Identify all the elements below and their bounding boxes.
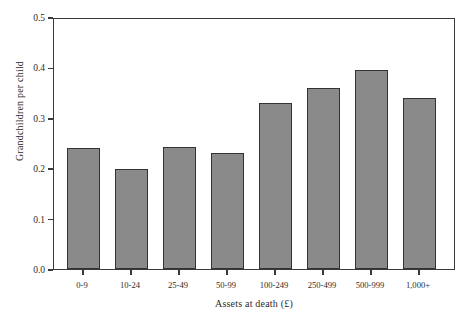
x-tick-mark-2: [178, 270, 180, 275]
bar-7: [403, 98, 436, 269]
bar-3: [211, 153, 244, 269]
bar-5: [307, 88, 340, 269]
bar-0: [67, 148, 100, 269]
x-axis-title: Assets at death (£): [53, 299, 455, 309]
x-tick-mark-4: [274, 270, 276, 275]
y-axis-title: Grandchildren per child: [15, 31, 25, 191]
x-tick-mark-1: [130, 270, 132, 275]
x-tick-mark-7: [418, 270, 420, 275]
y-tick-label-1: 0.1: [14, 216, 45, 226]
x-tick-mark-5: [322, 270, 324, 275]
bar-2: [163, 147, 196, 269]
x-tick-mark-3: [226, 270, 228, 275]
y-tick-label-5: 0.5: [14, 14, 45, 24]
bar-4: [259, 103, 292, 269]
plot-frame: [53, 18, 455, 270]
plot-area: [54, 19, 454, 269]
x-tick-mark-6: [370, 270, 372, 275]
bar-6: [355, 70, 388, 269]
x-tick-mark-0: [82, 270, 84, 275]
x-tick-label-7: 1,000+: [379, 281, 457, 290]
bar-1: [115, 169, 148, 270]
y-tick-label-0: 0.0: [14, 266, 45, 276]
bar-chart-figure: 0.0 0.1 0.2 0.3 0.4 0.5 Grandchildren pe…: [0, 0, 473, 323]
